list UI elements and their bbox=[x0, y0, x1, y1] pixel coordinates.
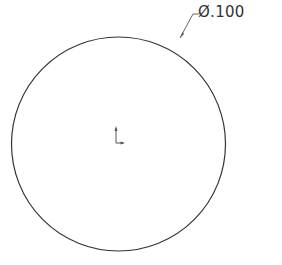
diameter-dimension-label[interactable]: Ø.100 bbox=[198, 3, 245, 21]
drawing-canvas bbox=[0, 0, 282, 265]
origin-marker-icon bbox=[115, 126, 126, 145]
dimension-leader[interactable] bbox=[180, 14, 199, 38]
circle-feature[interactable] bbox=[12, 37, 226, 251]
